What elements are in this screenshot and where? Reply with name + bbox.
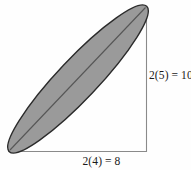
rectangle-diagonal: [10, 8, 146, 151]
shaded-ellipse: [0, 0, 161, 165]
vertical-side-label: 2(5) = 10: [149, 69, 191, 81]
figure-canvas: [0, 0, 191, 170]
ellipse-figure: 2(5) = 10 2(4) = 8: [0, 0, 191, 170]
horizontal-side-label: 2(4) = 8: [0, 155, 191, 167]
